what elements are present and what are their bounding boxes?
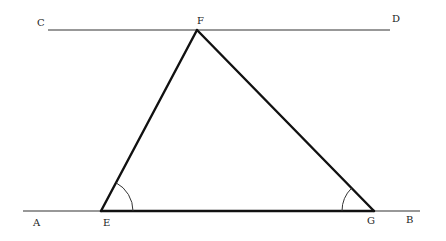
point-label-C: C (37, 17, 45, 28)
triangle-side-FG (197, 30, 374, 211)
triangle-side-EF (101, 30, 197, 211)
geometry-diagram: ABCDEFG (0, 0, 446, 241)
point-label-A: A (32, 217, 41, 228)
point-label-E: E (103, 217, 110, 228)
point-label-D: D (392, 13, 400, 24)
point-label-B: B (406, 214, 413, 225)
point-label-F: F (197, 15, 204, 26)
point-label-G: G (367, 215, 375, 226)
angle-arc-E (116, 183, 133, 211)
angle-arc-G (342, 188, 352, 211)
